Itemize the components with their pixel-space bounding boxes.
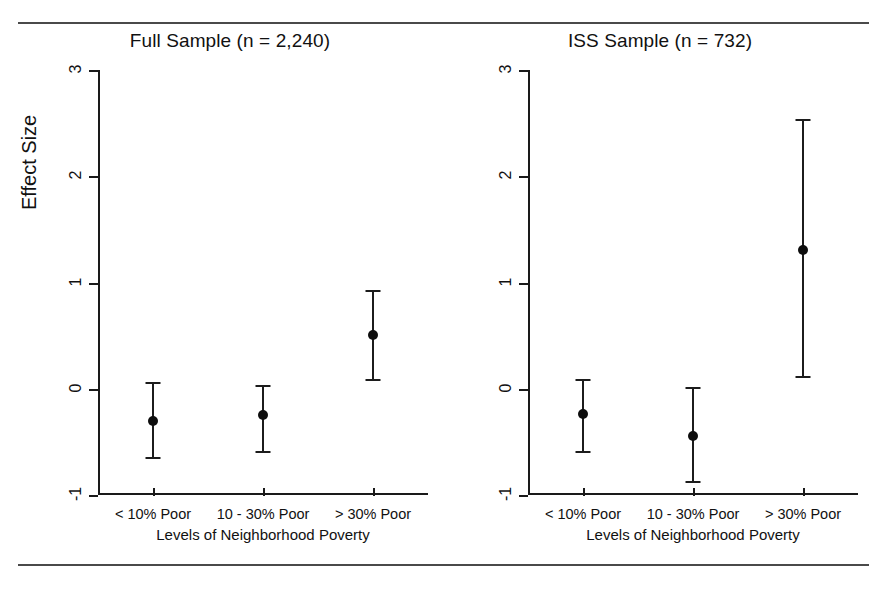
error-bar-right-0 <box>573 70 593 495</box>
whisker-cap-lower <box>256 451 271 453</box>
y-tick-left-1 <box>89 389 98 391</box>
whisker-cap-lower <box>686 481 701 483</box>
y-tick-right-1 <box>519 389 528 391</box>
panel-title-iss-sample: ISS Sample (n = 732) <box>450 30 870 52</box>
point-marker <box>688 431 698 441</box>
point-marker <box>798 245 808 255</box>
point-marker <box>148 416 158 426</box>
series-error-bars-left <box>98 70 428 495</box>
y-tick-left-4 <box>89 70 98 72</box>
y-tick-label-right-0: -1 <box>494 485 518 503</box>
point-marker <box>258 410 268 420</box>
error-bar-left-1 <box>253 70 273 495</box>
top-divider-rule <box>18 22 869 24</box>
y-tick-label-left-2: 1 <box>64 273 88 291</box>
error-bar-right-2 <box>793 70 813 495</box>
y-tick-right-0 <box>519 495 528 497</box>
y-tick-right-2 <box>519 283 528 285</box>
y-axis-title-left: Effect Size <box>18 115 41 210</box>
y-tick-label-right-4: 3 <box>494 60 518 78</box>
point-marker <box>368 330 378 340</box>
y-tick-right-4 <box>519 70 528 72</box>
y-tick-label-left-1: 0 <box>64 379 88 397</box>
y-tick-label-right-1: 0 <box>494 379 518 397</box>
whisker-cap-upper <box>796 119 811 121</box>
x-axis-title-left: Levels of Neighborhood Poverty <box>98 526 428 543</box>
whisker-cap-lower <box>366 379 381 381</box>
x-tick-label-right-0: < 10% Poor <box>545 506 621 522</box>
y-tick-left-3 <box>89 176 98 178</box>
point-marker <box>578 409 588 419</box>
whisker-cap-upper <box>576 379 591 381</box>
plot-area-right: -1 0 1 2 3 < 10% Poor 10 - 30% Poor > 30… <box>528 70 858 495</box>
panel-full-sample: Full Sample (n = 2,240) Effect Size -1 0… <box>20 30 440 550</box>
panel-iss-sample: ISS Sample (n = 732) -1 0 1 2 3 < 10% Po… <box>450 30 870 550</box>
y-tick-label-left-3: 2 <box>64 166 88 184</box>
x-tick-label-left-2: > 30% Poor <box>335 506 411 522</box>
x-tick-label-left-1: 10 - 30% Poor <box>217 506 310 522</box>
y-tick-label-right-3: 2 <box>494 166 518 184</box>
y-tick-label-right-2: 1 <box>494 273 518 291</box>
y-tick-label-left-4: 3 <box>64 60 88 78</box>
whisker-cap-upper <box>686 387 701 389</box>
x-tick-label-right-2: > 30% Poor <box>765 506 841 522</box>
figure-canvas: Full Sample (n = 2,240) Effect Size -1 0… <box>0 0 887 590</box>
whisker-cap-lower <box>146 457 161 459</box>
whisker-cap-lower <box>576 451 591 453</box>
y-tick-left-2 <box>89 283 98 285</box>
error-bar-left-2 <box>363 70 383 495</box>
error-bar-right-1 <box>683 70 703 495</box>
whisker-cap-upper <box>146 382 161 384</box>
whisker-cap-upper <box>256 385 271 387</box>
series-error-bars-right <box>528 70 858 495</box>
y-tick-right-3 <box>519 176 528 178</box>
whisker-cap-lower <box>796 376 811 378</box>
panel-title-full-sample: Full Sample (n = 2,240) <box>20 30 440 52</box>
whisker-cap-upper <box>366 290 381 292</box>
y-tick-left-0 <box>89 495 98 497</box>
x-tick-label-right-1: 10 - 30% Poor <box>647 506 740 522</box>
plot-area-left: -1 0 1 2 3 < 10% Poor 10 - 30% Poor > 30… <box>98 70 428 495</box>
bottom-divider-rule <box>18 564 869 566</box>
y-tick-label-left-0: -1 <box>64 485 88 503</box>
x-axis-title-right: Levels of Neighborhood Poverty <box>528 526 858 543</box>
x-tick-label-left-0: < 10% Poor <box>115 506 191 522</box>
error-bar-left-0 <box>143 70 163 495</box>
